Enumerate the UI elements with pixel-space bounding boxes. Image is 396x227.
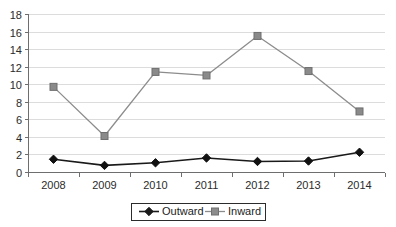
- chart-background: [0, 0, 396, 227]
- y-tick-label-2: 2: [16, 149, 22, 161]
- x-tick-label-2014: 2014: [347, 179, 371, 191]
- data-point-inward-2014: [356, 108, 363, 115]
- data-point-inward-2011: [203, 72, 210, 79]
- data-point-inward-2008: [50, 83, 57, 90]
- x-tick-label-2011: 2011: [195, 179, 219, 191]
- y-tick-label-16: 16: [10, 27, 22, 39]
- x-tick-label-2010: 2010: [143, 179, 167, 191]
- line-chart: 024681012141618 200820092010201120122013…: [0, 0, 396, 227]
- chart-canvas: 024681012141618 200820092010201120122013…: [0, 0, 396, 227]
- y-tick-label-10: 10: [10, 79, 22, 91]
- y-tick-label-0: 0: [16, 167, 22, 179]
- data-point-inward-2012: [254, 32, 261, 39]
- y-tick-label-8: 8: [16, 97, 22, 109]
- legend-marker-inward: [212, 208, 219, 215]
- chart-legend: OutwardInward: [132, 204, 266, 221]
- y-tick-label-12: 12: [10, 62, 22, 74]
- y-tick-label-6: 6: [16, 114, 22, 126]
- data-point-inward-2010: [152, 68, 159, 75]
- x-tick-label-2009: 2009: [92, 179, 116, 191]
- y-tick-label-18: 18: [10, 9, 22, 21]
- data-point-inward-2013: [305, 68, 312, 75]
- y-tick-label-14: 14: [10, 44, 22, 56]
- x-tick-label-2012: 2012: [245, 179, 269, 191]
- legend-label-inward: Inward: [228, 205, 261, 217]
- y-tick-label-4: 4: [16, 132, 22, 144]
- data-point-inward-2009: [101, 133, 108, 140]
- x-tick-label-2008: 2008: [41, 179, 65, 191]
- legend-label-outward: Outward: [162, 205, 204, 217]
- x-tick-label-2013: 2013: [296, 179, 320, 191]
